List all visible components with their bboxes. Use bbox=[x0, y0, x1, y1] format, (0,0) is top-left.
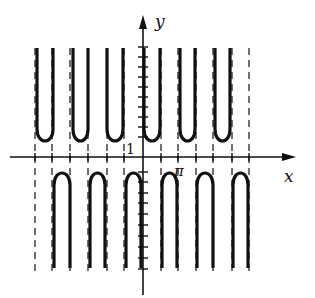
upper-branch bbox=[107, 48, 123, 141]
upper-branch bbox=[215, 48, 230, 141]
function-graph: x y 1 π bbox=[0, 0, 315, 298]
x-axis-label: x bbox=[284, 166, 294, 186]
lower-branch bbox=[197, 173, 213, 268]
y-axis-label: y bbox=[154, 11, 165, 31]
lower-branch bbox=[162, 173, 177, 268]
y-axis-arrow-icon bbox=[139, 15, 147, 29]
upper-branch bbox=[180, 48, 195, 141]
upper-branch bbox=[73, 48, 88, 141]
lower-branch bbox=[90, 173, 105, 268]
tick-label-pi: π bbox=[173, 162, 185, 180]
lower-branch bbox=[54, 173, 70, 268]
lower-branch bbox=[233, 173, 248, 268]
upper-branch bbox=[37, 48, 53, 141]
tick-label-one: 1 bbox=[126, 141, 135, 157]
x-axis-arrow-icon bbox=[282, 153, 296, 161]
lower-branch bbox=[126, 173, 141, 268]
